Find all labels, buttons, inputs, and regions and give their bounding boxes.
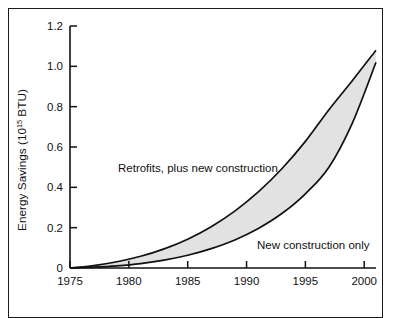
annotation-upper-band-label: Retrofits, plus new construction	[118, 162, 278, 174]
x-axis-tick-labels: 197519801985199019952000	[57, 275, 377, 287]
x-tick-label: 1990	[234, 275, 260, 287]
y-axis-ticks	[70, 26, 77, 268]
x-tick-label: 2000	[351, 275, 377, 287]
y-axis-title: Energy Savings (1015 BTU)	[15, 89, 29, 231]
y-axis-title-exponent: 15	[15, 120, 24, 128]
y-tick-label: 0.6	[47, 141, 63, 153]
energy-savings-band	[70, 50, 376, 268]
y-axis-title-text: Energy Savings (1015 BTU)	[15, 89, 29, 231]
y-tick-label: 0	[57, 262, 63, 274]
x-tick-label: 1980	[116, 275, 142, 287]
y-axis-title-tail: BTU)	[15, 89, 29, 120]
y-axis-tick-labels: 00.20.40.60.81.01.2	[47, 20, 64, 274]
x-tick-label: 1985	[175, 275, 201, 287]
y-tick-label: 0.8	[47, 101, 63, 113]
y-tick-label: 0.2	[47, 222, 63, 234]
x-tick-label: 1975	[57, 275, 83, 287]
y-tick-label: 0.4	[47, 181, 64, 193]
annotation-lower-band-label: New construction only	[257, 239, 370, 251]
x-tick-label: 1995	[293, 275, 319, 287]
y-tick-label: 1.0	[47, 60, 63, 72]
y-axis-title-base: Energy Savings (10	[15, 127, 29, 230]
y-tick-label: 1.2	[47, 20, 63, 32]
band-group	[70, 50, 376, 268]
